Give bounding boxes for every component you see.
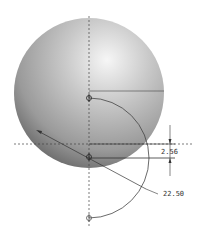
dimension-label-linear[interactable]: 2.56 <box>161 148 178 156</box>
angle-leader-tail <box>146 189 158 194</box>
dimension-label-angle[interactable]: 22.50 <box>163 190 184 198</box>
cad-drawing-canvas: 2.56 22.50 <box>0 0 201 227</box>
arrowhead-icon <box>169 139 172 144</box>
arrowhead-icon <box>169 158 172 163</box>
